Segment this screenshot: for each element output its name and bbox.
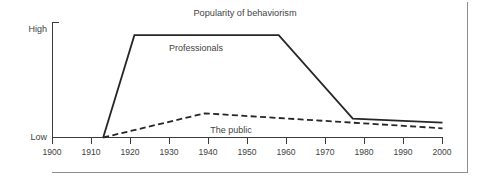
series-label-professionals: Professionals [169, 43, 224, 53]
x-axis-tick-label-1930: 1930 [159, 147, 178, 157]
x-axis-ticks [53, 138, 443, 144]
y-axis: High Low [28, 22, 59, 142]
x-axis-tick-labels: 1900 1910 1920 1930 1940 1950 1960 1970 … [42, 147, 451, 157]
x-axis-tick-label-2000: 2000 [432, 147, 451, 157]
x-axis-tick-label-1960: 1960 [276, 147, 295, 157]
series-line-professionals [103, 35, 442, 137]
chart-canvas: Popularity of behaviorism High Low [0, 0, 490, 181]
series-label-the-public: The public [210, 125, 252, 135]
x-axis-tick-label-1900: 1900 [42, 147, 61, 157]
x-axis-tick-label-1910: 1910 [81, 147, 100, 157]
x-axis-tick-label-1940: 1940 [198, 147, 217, 157]
x-axis-tick-label-1970: 1970 [315, 147, 334, 157]
chart-figure: Popularity of behaviorism High Low [0, 0, 490, 181]
x-axis-tick-label-1950: 1950 [237, 147, 256, 157]
x-axis-tick-label-1920: 1920 [120, 147, 139, 157]
y-axis-high-label: High [28, 24, 47, 34]
y-axis-low-label: Low [30, 132, 47, 142]
series-group [103, 35, 442, 137]
x-axis-tick-label-1980: 1980 [354, 147, 373, 157]
x-axis-tick-label-1990: 1990 [393, 147, 412, 157]
series-line-the-public [103, 113, 442, 137]
x-axis: 1900 1910 1920 1930 1940 1950 1960 1970 … [42, 138, 451, 158]
chart-title: Popularity of behaviorism [193, 8, 296, 18]
